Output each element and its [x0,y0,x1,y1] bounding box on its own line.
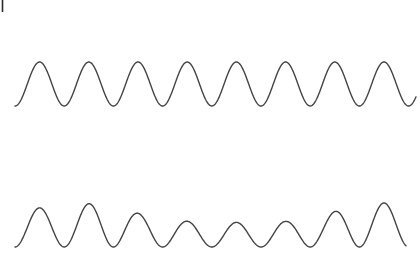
figure-background [0,0,420,272]
waveform-canvas [0,0,420,272]
waveform-figure [0,0,420,272]
